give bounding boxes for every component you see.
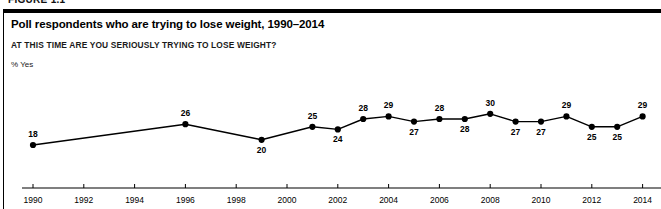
x-axis-tick-label: 1990	[24, 195, 43, 205]
data-point	[30, 142, 36, 148]
data-point-label: 25	[308, 111, 317, 121]
data-point	[462, 116, 468, 122]
x-axis-tick-label: 2006	[430, 195, 449, 205]
data-point	[487, 111, 493, 117]
data-point	[513, 119, 519, 125]
x-axis-tick-label: 2002	[328, 195, 347, 205]
data-point	[640, 113, 646, 119]
x-axis-tick-label: 2012	[582, 195, 601, 205]
x-axis-tick-label: 2004	[379, 195, 398, 205]
data-point-label: 24	[333, 134, 342, 144]
data-point-label: 27	[511, 127, 520, 137]
data-point	[182, 121, 188, 127]
data-point	[538, 119, 544, 125]
x-axis-tick-label: 2014	[633, 195, 652, 205]
data-point	[309, 124, 315, 130]
data-point	[259, 137, 265, 143]
data-point-label: 29	[638, 100, 647, 110]
data-point	[335, 126, 341, 132]
data-point	[386, 113, 392, 119]
data-point	[589, 124, 595, 130]
x-axis-tick-label: 2010	[532, 195, 551, 205]
figure-container: FIGURE 1.1 Poll respondents who are tryi…	[0, 0, 661, 209]
data-point-label: 30	[485, 98, 494, 108]
x-axis-tick-label: 2008	[481, 195, 500, 205]
data-point-label: 26	[181, 108, 190, 118]
line-chart-plot: 1990199219941996199820002002200420062008…	[0, 0, 661, 209]
x-axis-tick-label: 1996	[176, 195, 195, 205]
data-point	[614, 124, 620, 130]
data-point-label: 29	[384, 100, 393, 110]
data-point-label: 25	[587, 132, 596, 142]
data-point	[360, 116, 366, 122]
data-point	[436, 116, 442, 122]
x-axis-tick-label: 1998	[227, 195, 246, 205]
data-point-label: 27	[536, 127, 545, 137]
data-point-label: 20	[257, 145, 266, 155]
x-axis-tick-label: 1992	[74, 195, 93, 205]
data-point-label: 28	[460, 124, 469, 134]
data-point-label: 25	[612, 132, 621, 142]
data-point-label: 18	[28, 129, 37, 139]
data-point-label: 29	[562, 100, 571, 110]
data-point	[411, 119, 417, 125]
data-point-label: 27	[409, 127, 418, 137]
x-axis-tick-label: 2000	[278, 195, 297, 205]
data-point-label: 28	[358, 103, 367, 113]
data-point	[563, 113, 569, 119]
data-point-label: 28	[435, 103, 444, 113]
x-axis-tick-label: 1994	[125, 195, 144, 205]
